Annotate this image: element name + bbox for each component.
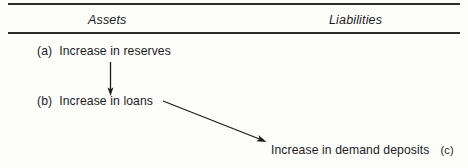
entry-text-a: Increase in reserves <box>59 44 171 58</box>
entry-text-c: Increase in demand deposits <box>271 143 430 157</box>
entry-tag-b: (b) <box>37 94 52 108</box>
arrow-a-to-b-icon <box>108 62 114 96</box>
header-rule-top <box>8 3 460 5</box>
entry-tag-a: (a) <box>37 44 52 58</box>
header-rule-bottom <box>8 32 460 34</box>
arrow-b-to-c-icon <box>163 101 267 142</box>
t-account-diagram: Assets Liabilities (a)Increase in reserv… <box>0 0 468 168</box>
entry-row-a: (a)Increase in reserves <box>37 44 171 58</box>
column-heading-liabilities: Liabilities <box>329 13 382 27</box>
entry-tag-c: (c) <box>441 144 454 156</box>
entry-text-b: Increase in loans <box>59 94 153 108</box>
column-heading-assets: Assets <box>88 13 126 27</box>
entry-row-c: Increase in demand deposits(c) <box>271 143 454 157</box>
entry-row-b: (b)Increase in loans <box>37 94 153 108</box>
